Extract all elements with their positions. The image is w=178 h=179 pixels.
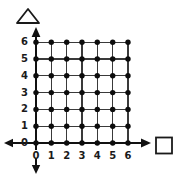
lattice-dot [110, 56, 115, 61]
y-tick-label-1: 1 [16, 121, 28, 131]
lattice-dot [33, 73, 38, 78]
lattice-dot [64, 140, 69, 145]
x-tick-label-1: 1 [45, 151, 57, 161]
lattice-dot [125, 40, 130, 45]
lattice-dot [79, 124, 84, 129]
lattice-dot [33, 124, 38, 129]
lattice-dot [95, 124, 100, 129]
lattice-dot [79, 140, 84, 145]
lattice-dot [64, 73, 69, 78]
lattice-dot [33, 140, 38, 145]
lattice-dot [79, 107, 84, 112]
lattice-dot [110, 124, 115, 129]
lattice-dot [79, 40, 84, 45]
triangle-marker-icon [17, 9, 39, 23]
lattice-dot [49, 124, 54, 129]
lattice-dot [110, 73, 115, 78]
lattice-dot [33, 107, 38, 112]
lattice-dot [33, 56, 38, 61]
lattice-dot [125, 90, 130, 95]
lattice-dot [125, 56, 130, 61]
lattice-dot [64, 124, 69, 129]
lattice-dot [64, 56, 69, 61]
x-tick-label-2: 2 [61, 151, 73, 161]
lattice-dot [79, 73, 84, 78]
x-tick-label-6: 6 [122, 151, 134, 161]
lattice-dot [79, 56, 84, 61]
lattice-dot [110, 90, 115, 95]
lattice-dot [125, 73, 130, 78]
lattice-dot [49, 90, 54, 95]
lattice-dot [110, 107, 115, 112]
lattice-dot [95, 56, 100, 61]
lattice-dot [33, 90, 38, 95]
y-tick-label-3: 3 [16, 88, 28, 98]
y-tick-label-4: 4 [16, 71, 28, 81]
lattice-dot [79, 90, 84, 95]
y-tick-label-0: 0 [16, 138, 28, 148]
lattice-dot [49, 73, 54, 78]
lattice-dot [95, 90, 100, 95]
lattice-dot [49, 56, 54, 61]
lattice-dot [95, 107, 100, 112]
y-tick-label-2: 2 [16, 104, 28, 114]
lattice-dot [33, 40, 38, 45]
diagram-canvas: 0 1 2 3 4 5 6 0 1 2 3 4 5 6 [0, 0, 178, 179]
x-tick-label-0: 0 [30, 151, 42, 161]
lattice-dot [95, 140, 100, 145]
lattice-dot [125, 124, 130, 129]
x-tick-label-3: 3 [76, 151, 88, 161]
lattice-dot [125, 140, 130, 145]
x-tick-label-5: 5 [107, 151, 119, 161]
lattice-dot [49, 40, 54, 45]
y-tick-label-6: 6 [16, 37, 28, 47]
y-tick-label-5: 5 [16, 54, 28, 64]
lattice-dot [49, 140, 54, 145]
square-marker-icon [156, 138, 172, 154]
lattice-dot [64, 90, 69, 95]
lattice-dot [125, 107, 130, 112]
lattice-dot [49, 107, 54, 112]
lattice-dot [110, 140, 115, 145]
lattice-dot [110, 40, 115, 45]
lattice-dot [64, 107, 69, 112]
lattice-dot [95, 40, 100, 45]
x-tick-label-4: 4 [91, 151, 103, 161]
up-arrow-icon [32, 27, 41, 37]
right-arrow-icon [141, 139, 151, 148]
lattice-dot [95, 73, 100, 78]
lattice-dot [64, 40, 69, 45]
